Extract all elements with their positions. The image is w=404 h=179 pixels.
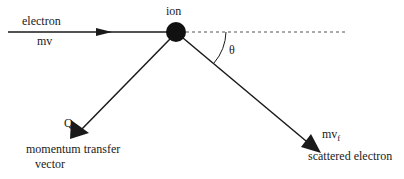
final-momentum-main: mv xyxy=(322,127,337,141)
final-momentum-subscript: f xyxy=(337,133,340,143)
final-momentum-label: mvf xyxy=(322,128,340,142)
incoming-arrowhead-icon xyxy=(96,28,112,36)
theta-arc xyxy=(214,32,226,63)
vector-label: vector xyxy=(35,158,65,171)
momentum-transfer-line xyxy=(80,39,170,131)
incoming-electron-label: electron xyxy=(22,15,61,28)
theta-label: θ xyxy=(229,44,235,57)
momentum-transfer-label: momentum transfer xyxy=(26,143,120,156)
scattered-electron-label: scattered electron xyxy=(308,150,392,163)
ion-label: ion xyxy=(166,5,181,18)
q-label: Q xyxy=(64,117,73,130)
ion-circle xyxy=(166,22,186,42)
scattered-electron-line xyxy=(183,38,312,146)
incoming-momentum-label: mv xyxy=(37,35,52,48)
